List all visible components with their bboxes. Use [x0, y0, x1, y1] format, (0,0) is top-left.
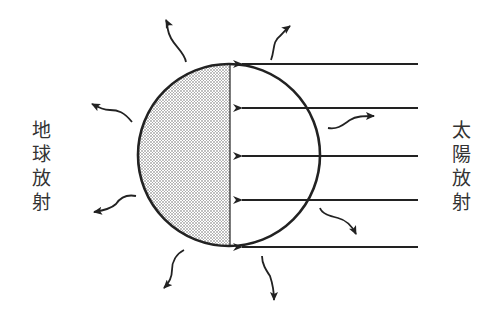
wavy-arrow-right-lower: [320, 208, 356, 234]
solar-radiation-label: 太陽放射: [450, 118, 472, 214]
earth-radiation-diagram: [0, 0, 500, 322]
earth-radiation-label: 地球放射: [30, 118, 52, 214]
wavy-arrow-right-mid: [328, 116, 374, 128]
wavy-arrow-left-lower: [94, 195, 136, 212]
wavy-arrow-bottom-right: [262, 256, 274, 300]
wavy-arrow-top-left: [166, 20, 186, 62]
night-side-shading: [139, 64, 230, 246]
wavy-arrow-bottom-left: [164, 250, 184, 288]
wavy-arrow-left-upper: [92, 104, 132, 122]
solar-rays: [242, 64, 418, 247]
wavy-arrow-top-right: [271, 26, 290, 60]
earth-radiation-arrows: [92, 20, 374, 300]
